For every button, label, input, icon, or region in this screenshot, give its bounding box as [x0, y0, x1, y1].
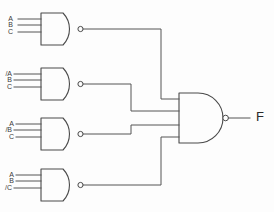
output-label-F: F — [256, 109, 264, 124]
nand2-input-label-2: B — [7, 76, 12, 83]
nand-out-body — [179, 93, 223, 143]
nand2-inversion-bubble — [78, 81, 83, 86]
logic-circuit-diagram: A B C /A B C A /B C — [0, 0, 274, 212]
nand2-input-label-3: C — [7, 83, 12, 90]
nand4-inversion-bubble — [78, 182, 83, 187]
nand2-body — [41, 68, 69, 100]
gate-nand3: A /B C — [5, 118, 83, 150]
nand1-input-label-3: C — [8, 28, 13, 35]
wire-nand2-to-output — [83, 84, 179, 111]
nand4-input-label-3: /C — [5, 184, 12, 191]
nand3-input-label-2: /B — [5, 126, 12, 133]
gate-nand-out: F — [179, 93, 264, 143]
gate-nand1: A B C — [8, 13, 83, 45]
nand1-input-label-2: B — [8, 21, 13, 28]
gate-nand4: A B /C — [5, 169, 83, 201]
nand1-inversion-bubble — [78, 26, 83, 31]
nand3-body — [41, 118, 69, 150]
wire-nand4-to-output — [83, 137, 179, 185]
nand3-inversion-bubble — [78, 131, 83, 136]
nand3-input-label-3: C — [9, 133, 14, 140]
circuit-svg: A B C /A B C A /B C — [0, 0, 274, 212]
nand4-body — [41, 169, 69, 201]
gate-nand2: /A B C — [5, 68, 83, 100]
wire-nand3-to-output — [83, 125, 179, 134]
nand1-body — [41, 13, 69, 45]
nand4-input-label-2: B — [9, 177, 14, 184]
nand-out-inversion-bubble — [223, 115, 229, 121]
